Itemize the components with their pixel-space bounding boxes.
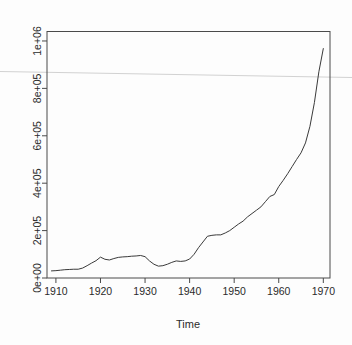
x-axis-tick-label: 1910 [44,285,68,297]
y-axis-tick-label: 0e+00 [31,263,43,293]
y-axis-tick-label: 1e+06 [31,26,43,56]
y-axis-tick-label: 4e+05 [31,168,43,198]
x-axis-title: Time [176,318,200,330]
x-axis-tick-label: 1930 [133,285,157,297]
x-axis-tick-label: 1960 [267,285,291,297]
x-axis-tick-label: 1950 [223,285,247,297]
chart-figure: 0e+002e+054e+056e+058e+051e+06 191019201… [0,0,352,345]
x-axis-tick-label: 1920 [89,285,113,297]
y-axis-tick-label: 2e+05 [31,216,43,246]
x-axis-tick-label: 1970 [312,285,336,297]
y-axis-tick-label: 8e+05 [31,73,43,103]
y-axis-tick-label: 6e+05 [31,121,43,151]
chart-canvas: 0e+002e+054e+056e+058e+051e+06 191019201… [0,0,352,345]
x-axis-tick-label: 1940 [178,285,202,297]
